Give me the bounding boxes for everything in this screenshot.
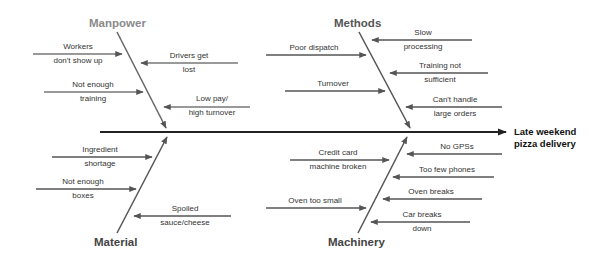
cause-methods-dispatch: Poor dispatch <box>266 43 366 55</box>
cause-material-boxes: Not enough boxes <box>36 177 136 200</box>
svg-text:lost: lost <box>183 65 196 74</box>
cause-methods-turnover: Turnover <box>285 79 385 91</box>
svg-text:Car breaks: Car breaks <box>402 210 441 219</box>
cause-machinery-gps: No GPSs <box>407 142 502 154</box>
svg-text:Training not: Training not <box>419 61 462 70</box>
svg-text:Not enough: Not enough <box>72 80 113 89</box>
svg-text:Too few phones: Too few phones <box>419 165 475 174</box>
svg-text:Poor dispatch: Poor dispatch <box>290 43 339 52</box>
svg-text:Credit card: Credit card <box>318 148 357 157</box>
svg-text:Not enough: Not enough <box>62 177 103 186</box>
effect-label-line1: Late weekend <box>514 126 576 137</box>
cause-machinery-phones: Too few phones <box>393 165 494 177</box>
cause-methods-largeorders: Can't handle large orders <box>406 95 502 118</box>
category-label-machinery: Machinery <box>328 236 385 248</box>
cause-machinery-ovenbreaks: Oven breaks <box>383 187 482 199</box>
cause-machinery-creditcard: Credit card machine broken <box>290 148 389 171</box>
svg-text:No GPSs: No GPSs <box>440 142 473 151</box>
cause-manpower-lowpay: Low pay/ high turnover <box>164 94 250 117</box>
cause-machinery-carbreaks: Car breaks down <box>371 210 470 233</box>
svg-text:Workers: Workers <box>63 42 93 51</box>
category-label-material: Material <box>94 236 137 248</box>
cause-manpower-training: Not enough training <box>44 80 143 103</box>
svg-text:Low pay/: Low pay/ <box>196 94 229 103</box>
svg-text:Oven too small: Oven too small <box>288 196 342 205</box>
manpower-bone <box>117 32 166 128</box>
svg-text:boxes: boxes <box>72 191 93 200</box>
svg-text:Slow: Slow <box>414 28 432 37</box>
svg-text:Drivers get: Drivers get <box>170 51 209 60</box>
svg-text:Ingredient: Ingredient <box>82 145 118 154</box>
cause-methods-training: Training not sufficient <box>390 61 488 84</box>
svg-text:machine broken: machine broken <box>310 162 367 171</box>
svg-text:sufficient: sufficient <box>424 75 456 84</box>
svg-text:processing: processing <box>404 42 443 51</box>
svg-text:down: down <box>412 224 431 233</box>
svg-text:Can't handle: Can't handle <box>433 95 478 104</box>
machinery-bone <box>358 137 407 233</box>
svg-text:shortage: shortage <box>84 159 116 168</box>
effect-label-line2: pizza delivery <box>514 138 576 149</box>
methods-bone <box>359 32 410 128</box>
fishbone-diagram: Late weekend pizza delivery Manpower Met… <box>0 0 603 262</box>
svg-text:high turnover: high turnover <box>189 108 236 117</box>
svg-text:sauce/cheese: sauce/cheese <box>160 218 210 227</box>
svg-text:Oven breaks: Oven breaks <box>408 187 453 196</box>
cause-methods-slow: Slow processing <box>372 28 472 51</box>
category-label-manpower: Manpower <box>89 17 146 29</box>
cause-material-ingredient: Ingredient shortage <box>52 145 152 168</box>
cause-material-spoiled: Spoiled sauce/cheese <box>134 204 231 227</box>
cause-machinery-ovensmall: Oven too small <box>266 196 366 208</box>
cause-manpower-workers: Workers don't show up <box>33 42 122 65</box>
svg-text:Spoiled: Spoiled <box>172 204 199 213</box>
svg-text:Turnover: Turnover <box>317 79 349 88</box>
svg-text:don't show up: don't show up <box>53 56 103 65</box>
svg-text:large orders: large orders <box>434 109 477 118</box>
svg-text:training: training <box>80 94 106 103</box>
cause-manpower-drivers: Drivers get lost <box>141 51 238 74</box>
category-label-methods: Methods <box>334 17 381 29</box>
